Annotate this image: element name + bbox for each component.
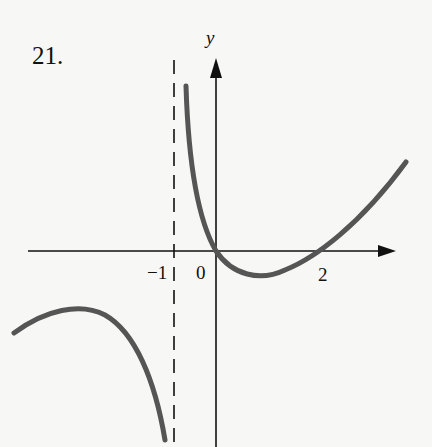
tick-label-0: 0 — [196, 262, 206, 283]
graph: y −1 0 2 — [0, 0, 432, 447]
curve-left-branch — [14, 309, 165, 440]
tick-label-neg1: −1 — [147, 262, 167, 283]
curve-right-branch — [186, 86, 406, 276]
x-axis-arrow-icon — [378, 245, 396, 257]
tick-label-2: 2 — [318, 264, 328, 285]
y-axis-arrow-icon — [210, 58, 222, 78]
y-axis-label: y — [204, 27, 215, 48]
